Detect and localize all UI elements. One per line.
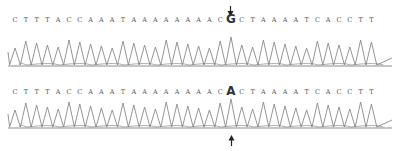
- chromatogram-bottom: CTTTACCAAATAAAAAAAACACTAAAATCACCTT: [0, 0, 397, 151]
- arrow-up-icon: [228, 131, 235, 150]
- trace-bottom: [0, 94, 397, 134]
